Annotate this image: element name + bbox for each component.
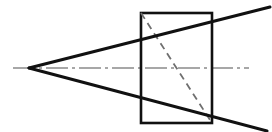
technical-drawing-figure xyxy=(0,0,272,132)
drawing-canvas xyxy=(0,0,272,132)
